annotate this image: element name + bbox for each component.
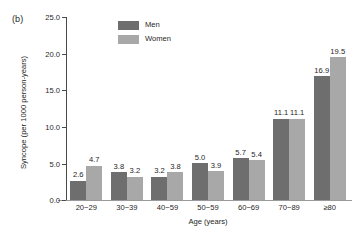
bar-group: 11.111.1 — [269, 17, 310, 200]
bar-value-label: 5.0 — [195, 154, 206, 162]
bar-women: 5.4 — [249, 160, 265, 200]
y-tick: 15.0 — [45, 81, 66, 99]
bar-value-label: 5.4 — [251, 151, 262, 159]
bar-value-label: 3.8 — [170, 163, 181, 171]
bar-value-label: 11.1 — [274, 109, 288, 117]
bar-group: 3.23.8 — [147, 17, 188, 200]
bar-value-label: 19.5 — [330, 48, 345, 56]
y-tick: 0.0 — [49, 191, 66, 209]
y-tick: 25.0 — [45, 8, 66, 26]
bar-men: 2.6 — [70, 181, 86, 200]
bar-group: 16.919.5 — [309, 17, 350, 200]
bar-women: 3.9 — [208, 171, 224, 200]
x-tick-label: 20−29 — [66, 203, 107, 212]
panel-label: (b) — [12, 14, 23, 24]
bar-men: 16.9 — [314, 76, 330, 200]
bar-women: 11.1 — [289, 119, 305, 200]
x-axis-line — [58, 200, 352, 201]
bar-value-label: 3.9 — [211, 162, 222, 170]
bar-women: 3.8 — [167, 172, 183, 200]
bar-value-label: 3.8 — [114, 163, 125, 171]
bar-value-label: 5.7 — [235, 149, 246, 157]
bar-women: 19.5 — [330, 57, 346, 200]
bar-value-label: 2.6 — [73, 171, 84, 179]
y-tick-mark — [62, 200, 66, 201]
bar-value-label: 11.1 — [290, 109, 304, 117]
x-axis-ticks: 20−2930−3940−5950−5960−6970−89≥80 — [66, 203, 350, 212]
y-tick: 20.0 — [45, 45, 66, 63]
x-tick-label: 70−89 — [269, 203, 310, 212]
bar-group: 5.03.9 — [188, 17, 229, 200]
bar-men: 3.8 — [111, 172, 127, 200]
bar-value-label: 16.9 — [314, 67, 329, 75]
x-axis-title: Age (years) — [66, 217, 350, 226]
x-tick-label: 50−59 — [188, 203, 229, 212]
bar-value-label: 4.7 — [89, 156, 100, 164]
y-tick-label: 5.0 — [49, 160, 60, 169]
bar-men: 5.7 — [233, 158, 249, 200]
y-axis-title: Syncope (per 1000 person-years) — [19, 28, 28, 198]
x-tick-label: ≥80 — [309, 203, 350, 212]
bar-men: 5.0 — [192, 163, 208, 200]
bar-group: 2.64.7 — [66, 17, 107, 200]
bar-women: 4.7 — [86, 166, 102, 200]
bar-value-label: 3.2 — [154, 167, 165, 175]
y-tick-label: 20.0 — [45, 50, 60, 59]
x-tick-label: 40−59 — [147, 203, 188, 212]
bar-men: 11.1 — [273, 119, 289, 200]
bar-group: 5.75.4 — [228, 17, 269, 200]
y-tick: 10.0 — [45, 118, 66, 136]
bar-women: 3.2 — [127, 177, 143, 200]
y-tick-label: 10.0 — [45, 123, 60, 132]
y-tick: 5.0 — [49, 154, 66, 172]
figure-panel-b: (b) Syncope (per 1000 person-years) 0.05… — [0, 0, 356, 236]
y-tick-label: 0.0 — [49, 196, 60, 205]
bar-men: 3.2 — [151, 177, 167, 200]
y-tick-label: 15.0 — [45, 86, 60, 95]
bar-group: 3.83.2 — [107, 17, 148, 200]
x-tick-label: 30−39 — [107, 203, 148, 212]
bar-groups: 2.64.73.83.23.23.85.03.95.75.411.111.116… — [66, 17, 350, 200]
x-tick-label: 60−69 — [228, 203, 269, 212]
y-tick-label: 25.0 — [45, 13, 60, 22]
bar-value-label: 3.2 — [130, 167, 141, 175]
